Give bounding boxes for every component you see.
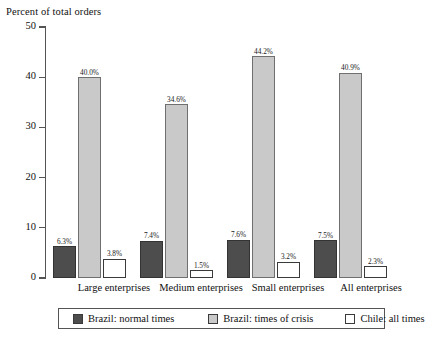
y-tick-10 <box>39 227 46 228</box>
y-tick-label-50: 50 <box>6 21 36 31</box>
bar-value-label: 7.5% <box>308 231 343 240</box>
bar-value-label: 7.6% <box>221 230 256 239</box>
bar <box>277 262 300 278</box>
bar <box>78 77 101 278</box>
bar <box>53 246 76 278</box>
bar <box>252 56 275 278</box>
y-tick-label-30: 30 <box>6 121 36 131</box>
legend-item: Brazil: times of crisis <box>208 313 313 324</box>
legend-item: Chile: all times <box>345 313 424 324</box>
y-tick-label-0: 0 <box>6 272 36 282</box>
y-tick-label-20: 20 <box>6 172 36 182</box>
bar <box>165 104 188 278</box>
bar-value-label: 34.6% <box>159 95 194 104</box>
x-category-label: All enterprises <box>311 282 429 293</box>
y-axis-title: Percent of total orders <box>6 6 101 17</box>
y-tick-20 <box>39 177 46 178</box>
bar-value-label: 3.2% <box>271 252 306 261</box>
bar-value-label: 7.4% <box>134 231 169 240</box>
chart-legend: Brazil: normal timesBrazil: times of cri… <box>58 308 385 329</box>
legend-label: Brazil: normal times <box>88 313 174 324</box>
bar <box>103 259 126 278</box>
bar-value-label: 40.9% <box>333 63 368 72</box>
y-tick-40 <box>39 77 46 78</box>
bar <box>227 240 250 278</box>
bar-value-label: 6.3% <box>47 237 82 246</box>
y-tick-50 <box>39 26 46 27</box>
bar <box>364 266 387 278</box>
bar <box>190 270 213 278</box>
bar-value-label: 3.8% <box>97 249 132 258</box>
bar <box>339 73 362 278</box>
legend-label: Chile: all times <box>360 313 424 324</box>
legend-swatch-icon <box>345 314 355 324</box>
y-tick-label-40: 40 <box>6 71 36 81</box>
y-tick-0 <box>39 277 46 278</box>
legend-swatch-icon <box>73 314 83 324</box>
plot-area: 6.3%40.0%3.8%7.4%34.6%1.5%7.6%44.2%3.2%7… <box>46 27 394 278</box>
y-tick-30 <box>39 127 46 128</box>
bar-value-label: 44.2% <box>246 47 281 56</box>
bar-value-label: 1.5% <box>184 261 219 270</box>
bar <box>314 240 337 278</box>
legend-item: Brazil: normal times <box>73 313 174 324</box>
y-tick-label-10: 10 <box>6 222 36 232</box>
legend-swatch-icon <box>208 314 218 324</box>
bar-value-label: 40.0% <box>72 68 107 77</box>
bar <box>140 241 163 278</box>
bar-value-label: 2.3% <box>358 257 393 266</box>
legend-label: Brazil: times of crisis <box>223 313 313 324</box>
